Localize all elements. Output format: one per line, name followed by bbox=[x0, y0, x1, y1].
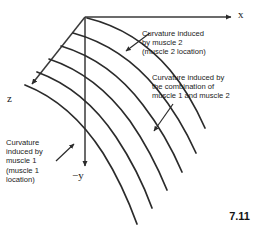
annotation-line: Curvature induced bbox=[142, 29, 206, 38]
annotation-line: Curvature induced by bbox=[152, 73, 230, 82]
axis-label-z: z bbox=[7, 92, 12, 104]
annotation-line: location) bbox=[6, 175, 43, 184]
figure-container: x z −y Curvature induced by muscle 2 (mu… bbox=[0, 0, 258, 230]
annotation-line: induced by bbox=[6, 147, 43, 156]
axis-label-x: x bbox=[238, 8, 244, 20]
spine-curvature-diagram bbox=[0, 0, 258, 230]
figure-number: 7.11 bbox=[229, 210, 250, 222]
annotation-label-combination: Curvature induced by the combination of … bbox=[152, 73, 230, 101]
annotation-label-muscle-1: Curvature induced by muscle 1 (muscle 1 … bbox=[6, 138, 43, 184]
annotation-label-muscle-2: Curvature induced by muscle 2 (muscle 2 … bbox=[142, 29, 206, 57]
annotation-line: by muscle 2 bbox=[142, 38, 206, 47]
annotation-line: (muscle 1 bbox=[6, 166, 43, 175]
annotation-line: muscle 1 and muscle 2 bbox=[152, 91, 230, 100]
combination-arrow bbox=[154, 104, 173, 131]
axis-label-negative-y: −y bbox=[72, 169, 84, 181]
annotation-line: muscle 1 bbox=[6, 156, 43, 165]
annotation-line: the combination of bbox=[152, 82, 230, 91]
annotation-line: Curvature bbox=[6, 138, 43, 147]
annotation-line: (muscle 2 location) bbox=[142, 47, 206, 56]
muscle-1-arrow bbox=[56, 144, 74, 161]
